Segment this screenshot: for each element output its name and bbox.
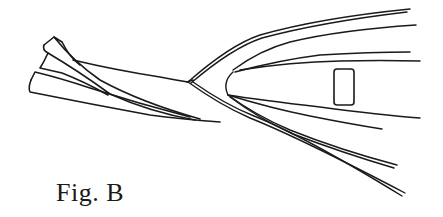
- figure-caption: Fig. B: [56, 180, 124, 206]
- rounded-rectangle-mark: [334, 69, 354, 105]
- fan-strands: [188, 9, 420, 196]
